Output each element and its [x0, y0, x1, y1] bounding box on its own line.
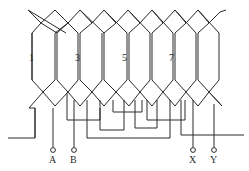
winding — [8, 10, 244, 147]
coil-label-7: 7 — [169, 52, 174, 63]
coil-label-3: 3 — [75, 52, 80, 63]
terminal-label-a: A — [49, 154, 57, 165]
terminal-x — [191, 148, 196, 153]
coil-label-5: 5 — [122, 52, 127, 63]
terminal-b — [72, 148, 77, 153]
terminal-label-b: B — [70, 154, 77, 165]
winding-diagram: A B X Y 1 3 5 7 — [0, 0, 249, 171]
terminal-a — [51, 148, 56, 153]
terminal-label-y: Y — [210, 154, 217, 165]
terminals: A B X Y — [49, 148, 217, 165]
terminal-y — [212, 148, 217, 153]
coil-label-1: 1 — [29, 52, 34, 63]
terminal-label-x: X — [189, 154, 197, 165]
